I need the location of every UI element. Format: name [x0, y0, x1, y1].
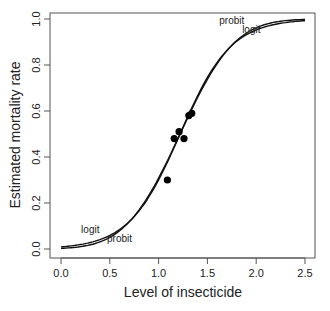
logit-label: logit — [81, 224, 100, 235]
probit-curve — [61, 19, 305, 248]
x-tick-label: 0.5 — [102, 267, 117, 279]
y-tick-label: 0.6 — [30, 103, 42, 118]
x-tick-label: 1.5 — [200, 267, 215, 279]
logit-label: logit — [242, 24, 261, 35]
mortality-chart: 0.00.51.01.52.02.5 0.00.20.40.60.81.0 lo… — [0, 0, 330, 311]
probit-label: probit — [107, 233, 132, 244]
x-tick-label: 1.0 — [151, 267, 166, 279]
y-tick-label: 1.0 — [30, 11, 42, 26]
y-tick-label: 0.4 — [30, 149, 42, 164]
x-axis-label: Level of insecticide — [124, 284, 243, 300]
x-tick-label: 2.5 — [297, 267, 312, 279]
y-tick-label: 0.8 — [30, 57, 42, 72]
data-point — [175, 128, 182, 135]
y-axis: 0.00.20.40.60.81.0 — [30, 11, 50, 256]
x-axis: 0.00.51.01.52.02.5 — [53, 258, 312, 279]
curve-labels: logitprobitprobitlogit — [81, 15, 261, 245]
data-point — [171, 135, 178, 142]
x-tick-label: 0.0 — [53, 267, 68, 279]
data-point — [188, 110, 195, 117]
y-axis-label: Estimated mortality rate — [7, 61, 23, 208]
y-tick-label: 0.0 — [30, 241, 42, 256]
y-tick-label: 0.2 — [30, 195, 42, 210]
probit-label: probit — [219, 15, 244, 26]
data-point — [164, 176, 171, 183]
x-tick-label: 2.0 — [249, 267, 264, 279]
model-curves — [61, 19, 305, 248]
data-points — [164, 110, 196, 184]
data-point — [180, 135, 187, 142]
logit-curve — [61, 21, 305, 247]
